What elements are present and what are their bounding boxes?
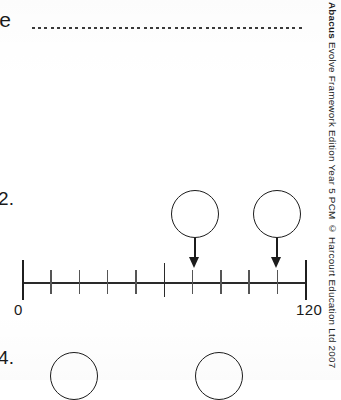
question-number-2: 2.: [0, 189, 14, 209]
number-line-tick-120: [305, 260, 307, 300]
number-line-tick-60: [164, 263, 166, 297]
name-label: ne: [0, 8, 11, 32]
question-number-4: 4.: [0, 348, 14, 368]
number-line-tick-48: [135, 270, 137, 294]
number-line-tick-24: [79, 270, 81, 294]
answer-bubble-3[interactable]: [50, 352, 98, 400]
copyright-strip: Abacus Evolve Framework Edition Year 5 P…: [325, 2, 340, 378]
number-line-end-label: 120: [296, 302, 322, 318]
copyright-detail: Evolve Framework Edition Year 5 PCM © Ha…: [327, 39, 338, 368]
number-line-tick-84: [220, 270, 222, 294]
copyright-text: Abacus Evolve Framework Edition Year 5 P…: [326, 2, 339, 368]
answer-bubble-4[interactable]: [195, 352, 243, 400]
copyright-brand: Abacus: [327, 2, 338, 39]
name-dotted-line[interactable]: [32, 27, 305, 29]
number-line: 0 120: [0, 258, 320, 308]
answer-bubble-2[interactable]: [253, 190, 301, 238]
number-line-tick-36: [107, 270, 109, 294]
number-line-tick-12: [50, 270, 52, 294]
number-line-tick-72: [192, 270, 194, 294]
number-line-tick-0: [22, 260, 24, 300]
number-line-tick-96: [248, 270, 250, 294]
answer-bubble-1[interactable]: [171, 190, 219, 238]
number-line-tick-108: [277, 270, 279, 294]
number-line-start-label: 0: [14, 302, 23, 318]
name-field-row: ne: [0, 8, 311, 34]
